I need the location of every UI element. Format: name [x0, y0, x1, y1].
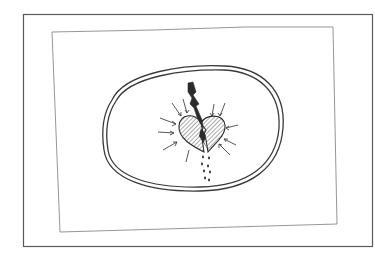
falling-drops-icon [201, 156, 211, 182]
sketch-image [0, 0, 375, 256]
